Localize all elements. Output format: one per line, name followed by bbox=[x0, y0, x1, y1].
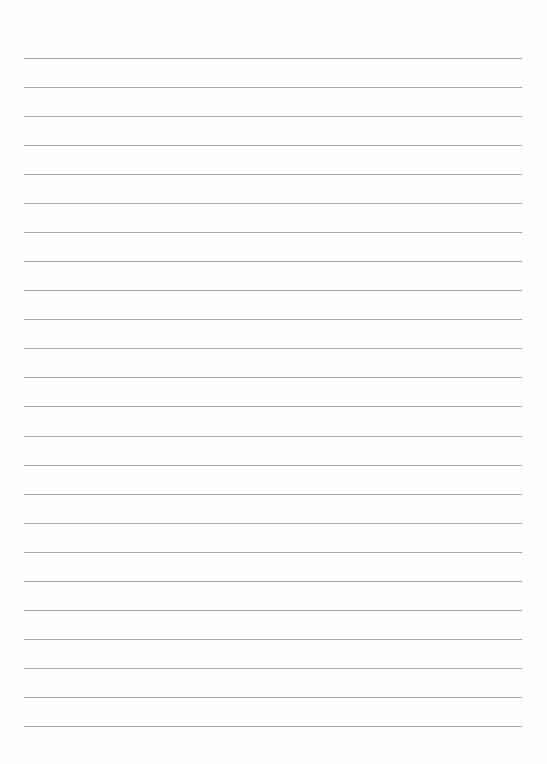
ruled-line bbox=[24, 494, 522, 495]
ruled-paper-page bbox=[0, 0, 547, 764]
ruled-line bbox=[24, 145, 522, 146]
ruled-line bbox=[24, 406, 522, 407]
ruled-line bbox=[24, 348, 522, 349]
ruled-line bbox=[24, 726, 522, 727]
ruled-line bbox=[24, 523, 522, 524]
ruled-line bbox=[24, 290, 522, 291]
ruled-line bbox=[24, 639, 522, 640]
ruled-line bbox=[24, 232, 522, 233]
ruled-line bbox=[24, 465, 522, 466]
ruled-line bbox=[24, 436, 522, 437]
ruled-line bbox=[24, 58, 522, 59]
ruled-line bbox=[24, 203, 522, 204]
ruled-line bbox=[24, 581, 522, 582]
ruled-line bbox=[24, 610, 522, 611]
ruled-line bbox=[24, 668, 522, 669]
ruled-line bbox=[24, 116, 522, 117]
ruled-line bbox=[24, 697, 522, 698]
ruled-line bbox=[24, 174, 522, 175]
ruled-line bbox=[24, 319, 522, 320]
ruled-line bbox=[24, 87, 522, 88]
ruled-line bbox=[24, 377, 522, 378]
ruled-line bbox=[24, 261, 522, 262]
ruled-line bbox=[24, 552, 522, 553]
